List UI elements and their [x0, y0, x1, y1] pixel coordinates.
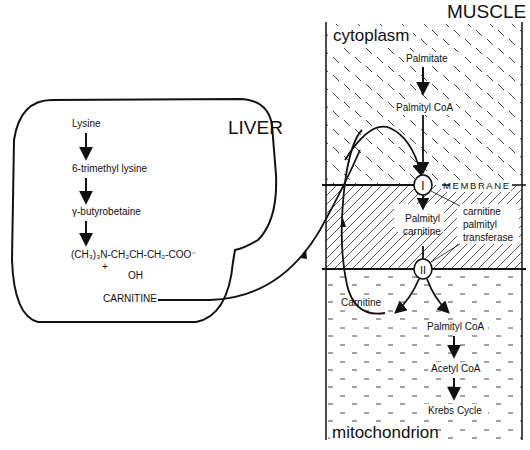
- carnitine-formula: (CH₃)₃N-CH₂CH-CH₂-COO⁻: [71, 249, 196, 260]
- acetyl-coa-label: Acetyl CoA: [431, 363, 481, 374]
- enzyme-label-line2: palmityl: [463, 219, 497, 230]
- mito-carnitine-label: Carnitine: [341, 297, 381, 308]
- site-2-label: II: [420, 264, 426, 276]
- carnitine-transport-diagram: LIVER Lysine 6-trimethyl lysine γ-butyro…: [0, 0, 530, 450]
- krebs-cycle-label: Krebs Cycle: [428, 405, 482, 416]
- pathway-trimethyl-lysine: 6-trimethyl lysine: [72, 163, 147, 174]
- arrowhead-icon: [300, 249, 307, 259]
- liver-compartment: LIVER Lysine 6-trimethyl lysine γ-butyro…: [12, 99, 283, 322]
- palmitate-label: Palmitate: [406, 53, 448, 64]
- formula-charge: +: [102, 261, 108, 272]
- muscle-title: MUSCLE: [447, 1, 526, 22]
- cytoplasm-label: cytoplasm: [333, 26, 410, 45]
- enzyme-label-line1: carnitine: [463, 206, 501, 217]
- liver-title: LIVER: [228, 117, 283, 138]
- site-1-label: I: [421, 179, 424, 193]
- formula-hydroxyl: OH: [128, 270, 143, 281]
- pathway-lysine: Lysine: [72, 118, 101, 129]
- liver-carnitine-label: CARNITINE: [103, 293, 157, 304]
- cytoplasm-palmityl-coa-label: Palmityl CoA: [396, 102, 454, 113]
- palmityl-carnitine-line2: carnitine: [403, 226, 441, 237]
- pathway-butyrobetaine: γ-butyrobetaine: [72, 206, 141, 217]
- mito-palmityl-coa-label: Palmityl CoA: [427, 321, 485, 332]
- mitochondrion-label: mitochondrion: [332, 423, 439, 442]
- membrane-label: MEMBRANE: [443, 180, 511, 191]
- palmityl-carnitine-line1: Palmityl: [405, 213, 440, 224]
- enzyme-label-line3: transferase: [463, 232, 513, 243]
- muscle-compartment: MUSCLE cytoplasm Palmitate Palmityl CoA …: [322, 1, 526, 443]
